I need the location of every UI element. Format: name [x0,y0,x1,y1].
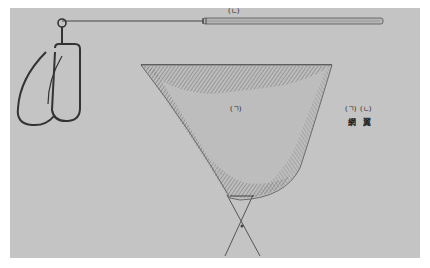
net-marker-label: (ㄱ) [230,106,241,113]
legend-term-2: 翼 [363,118,371,126]
net-illustration [10,8,420,258]
pole-marker-label: (ㄴ) [228,8,239,15]
hook-handle [18,19,80,125]
pole [62,18,383,24]
legend-marker-1: (ㄱ) [345,106,356,113]
illustration-plate: (ㄴ) (ㄱ) (ㄱ) 網 (ㄴ) 翼 [10,8,420,258]
legend-term-1: 網 [348,118,356,126]
legend-marker-2: (ㄴ) [360,106,371,113]
net [141,65,332,256]
